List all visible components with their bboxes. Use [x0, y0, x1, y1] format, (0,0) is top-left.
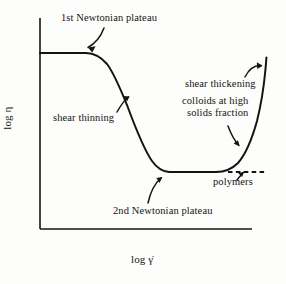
- label-shear-thinning: shear thinning: [53, 112, 114, 124]
- label-colloids-high-solids: colloids at high solids fraction: [182, 95, 248, 119]
- arrow-colloids: [228, 126, 240, 146]
- arrow-shear-thickening: [245, 62, 263, 77]
- label-first-newtonian-plateau: 1st Newtonian plateau: [61, 12, 157, 24]
- label-colloids-line2: solids fraction: [182, 107, 248, 119]
- label-colloids-line1: colloids at high: [182, 95, 248, 106]
- figure-canvas: [0, 0, 286, 284]
- label-second-newtonian-plateau: 2nd Newtonian plateau: [113, 205, 213, 217]
- flow-curve-figure: 1st Newtonian plateau shear thinning she…: [0, 0, 286, 284]
- label-polymers: polymers: [213, 176, 253, 188]
- arrow-second-plateau: [148, 177, 162, 203]
- x-axis-label: log γ̇: [131, 253, 153, 265]
- y-axis-label: log η: [1, 107, 13, 130]
- label-shear-thickening: shear thickening: [185, 78, 256, 90]
- arrow-first-plateau: [88, 28, 104, 53]
